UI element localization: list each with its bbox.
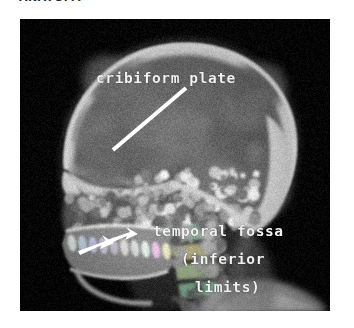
top-caption-remnant: ANATOMY xyxy=(19,0,93,3)
sagittal-skull-ct-figure: cribiform plate temporal fossa (inferior… xyxy=(20,19,330,311)
ct-scan-image xyxy=(20,19,330,311)
